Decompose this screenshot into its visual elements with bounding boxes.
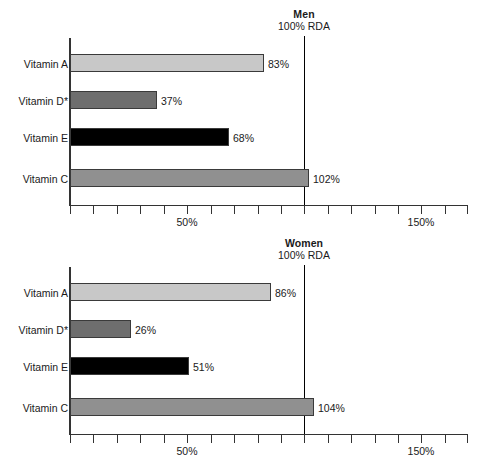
x-tick-women-0 (70, 434, 71, 443)
bar-value-women-3: 104% (318, 402, 345, 414)
plot-area-men: Men 100% RDA Vitamin A Vitamin D* Vitami… (0, 0, 479, 235)
bar-women-vitamin-a (70, 283, 271, 301)
bar-men-vitamin-d (70, 91, 157, 109)
x-axis-men (69, 205, 468, 206)
x-tick-women-70 (234, 434, 235, 443)
x-tick-women-130 (375, 434, 376, 443)
category-label-women-3: Vitamin C (4, 402, 68, 414)
category-label-men-3: Vitamin C (4, 173, 68, 185)
x-tick-men-50 (187, 205, 188, 214)
x-tick-women-10 (93, 434, 94, 443)
x-tick-men-10 (93, 205, 94, 214)
x-tick-women-150 (421, 434, 422, 443)
x-tick-women-50 (187, 434, 188, 443)
category-label-women-1: Vitamin D* (4, 324, 68, 336)
bar-value-women-1: 26% (135, 324, 156, 336)
rda-header-women: Women 100% RDA (244, 237, 364, 262)
bar-women-vitamin-e (70, 357, 189, 375)
x-tick-men-0 (70, 205, 71, 214)
x-tick-women-40 (164, 434, 165, 443)
x-tick-men-120 (351, 205, 352, 214)
x-tick-women-80 (258, 434, 259, 443)
x-tick-women-120 (351, 434, 352, 443)
x-tick-men-150 (421, 205, 422, 214)
category-label-women-2: Vitamin E (4, 361, 68, 373)
category-label-men-0: Vitamin A (4, 58, 68, 70)
x-tick-women-170 (467, 434, 468, 443)
x-tick-label-men-50: 50% (157, 216, 217, 228)
x-tick-men-130 (375, 205, 376, 214)
x-tick-women-110 (328, 434, 329, 443)
bar-men-vitamin-a (70, 54, 264, 72)
x-tick-men-140 (398, 205, 399, 214)
x-tick-men-20 (117, 205, 118, 214)
chart-page: Men 100% RDA Vitamin A Vitamin D* Vitami… (0, 0, 479, 470)
chart-women: Women 100% RDA Vitamin A Vitamin D* Vita… (0, 229, 479, 464)
x-tick-women-100 (304, 434, 305, 443)
bar-value-women-0: 86% (275, 287, 296, 299)
x-tick-men-70 (234, 205, 235, 214)
bar-value-women-2: 51% (193, 361, 214, 373)
bar-women-vitamin-c (70, 398, 314, 416)
x-tick-men-30 (140, 205, 141, 214)
bar-value-men-2: 68% (233, 132, 254, 144)
chart-title-men: Men (244, 8, 364, 20)
x-tick-men-80 (258, 205, 259, 214)
x-tick-label-women-150: 150% (391, 445, 451, 457)
chart-subtitle-women: 100% RDA (244, 249, 364, 261)
category-label-women-0: Vitamin A (4, 287, 68, 299)
x-tick-men-90 (281, 205, 282, 214)
x-tick-men-100 (304, 205, 305, 214)
x-tick-men-60 (211, 205, 212, 214)
category-label-men-1: Vitamin D* (4, 95, 68, 107)
x-tick-men-40 (164, 205, 165, 214)
x-tick-men-170 (467, 205, 468, 214)
bar-value-men-1: 37% (161, 95, 182, 107)
chart-men: Men 100% RDA Vitamin A Vitamin D* Vitami… (0, 0, 479, 235)
chart-title-women: Women (244, 237, 364, 249)
x-tick-women-20 (117, 434, 118, 443)
x-tick-men-110 (328, 205, 329, 214)
x-tick-women-160 (445, 434, 446, 443)
x-axis-women (69, 434, 468, 435)
category-label-men-2: Vitamin E (4, 132, 68, 144)
x-tick-men-160 (445, 205, 446, 214)
x-tick-women-90 (281, 434, 282, 443)
x-tick-women-60 (211, 434, 212, 443)
x-tick-label-men-150: 150% (391, 216, 451, 228)
bar-women-vitamin-d (70, 320, 131, 338)
chart-subtitle-men: 100% RDA (244, 20, 364, 32)
bar-value-men-3: 102% (313, 173, 340, 185)
bar-men-vitamin-e (70, 128, 229, 146)
rda-header-men: Men 100% RDA (244, 8, 364, 33)
x-tick-women-30 (140, 434, 141, 443)
plot-area-women: Women 100% RDA Vitamin A Vitamin D* Vita… (0, 229, 479, 464)
x-tick-women-140 (398, 434, 399, 443)
x-tick-label-women-50: 50% (157, 445, 217, 457)
bar-men-vitamin-c (70, 169, 309, 187)
bar-value-men-0: 83% (268, 58, 289, 70)
